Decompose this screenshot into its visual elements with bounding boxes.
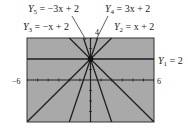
label-y1: Y1 = 2: [158, 56, 183, 69]
label-ymax: 4: [95, 28, 99, 38]
label-y2: Y2 = x + 2: [114, 22, 154, 35]
label-y3: Y3 = −x + 2: [23, 22, 69, 35]
label-xmax: 6: [157, 77, 161, 87]
intersection-point: [88, 56, 94, 62]
label-y5: Y5 = −3x + 2: [28, 4, 79, 17]
label-y4: Y4 = 3x + 2: [105, 4, 150, 17]
label-xmin: −6: [12, 77, 21, 87]
leader-y5: [72, 16, 86, 40]
